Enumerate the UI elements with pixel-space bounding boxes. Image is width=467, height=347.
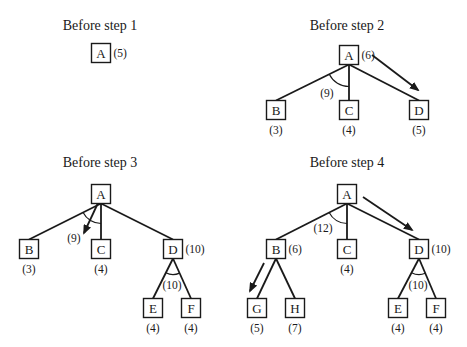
node-c: C(4)	[340, 101, 359, 137]
node-label: F	[187, 301, 194, 316]
expansion-arrow-icon	[363, 197, 412, 230]
node-label: C	[343, 242, 352, 257]
node-cost: (10)	[432, 243, 451, 256]
edge-a-b	[276, 65, 349, 101]
node-label: D	[414, 242, 423, 257]
node-label: C	[345, 103, 354, 118]
node-b: B(3)	[267, 101, 286, 137]
node-cost: (4)	[94, 263, 108, 276]
edge-b-h	[276, 259, 295, 299]
panel-title: Before step 3	[63, 155, 138, 170]
panel-step3: Before step 3(9)(10)AB(3)C(4)D(10)E(4)F(…	[20, 155, 205, 335]
node-label: A	[344, 48, 354, 63]
node-c: C(4)	[92, 240, 111, 276]
panel-step1: Before step 1A(5)	[63, 18, 138, 63]
and-arc-cost-label: (10)	[162, 279, 181, 292]
node-b: B(3)	[20, 240, 39, 276]
node-a: A(5)	[92, 44, 128, 63]
node-label: F	[432, 301, 439, 316]
expansion-arrow-icon	[372, 55, 418, 90]
node-cost: (5)	[412, 124, 426, 137]
node-cost: (4)	[340, 263, 354, 276]
and-or-graph-figure: Before step 1A(5)Before step 2(9)A(6)B(3…	[0, 0, 467, 347]
and-arc-cost-label: (9)	[320, 87, 334, 100]
node-d: D(5)	[410, 101, 429, 137]
and-arc-cost-label: (10)	[408, 279, 427, 292]
node-g: G(5)	[248, 299, 267, 335]
panel-title: Before step 2	[310, 18, 385, 33]
node-label: G	[252, 301, 261, 316]
node-label: E	[149, 301, 157, 316]
node-label: D	[414, 103, 423, 118]
node-cost: (4)	[391, 322, 405, 335]
node-d: D(10)	[164, 240, 205, 259]
panel-title: Before step 1	[63, 18, 138, 33]
node-label: B	[25, 242, 34, 257]
node-a: A	[92, 185, 111, 204]
node-cost: (3)	[22, 263, 36, 276]
and-arc-cost-label: (12)	[313, 222, 332, 235]
and-arc	[412, 273, 426, 275]
edge-a-b	[276, 204, 347, 240]
node-cost: (5)	[114, 47, 128, 60]
node-c: C(4)	[338, 240, 357, 276]
node-label: A	[96, 46, 106, 61]
node-a: A(6)	[340, 46, 376, 65]
node-label: D	[168, 242, 177, 257]
node-cost: (10)	[186, 243, 205, 256]
node-cost: (4)	[146, 322, 160, 335]
node-label: B	[272, 242, 281, 257]
node-label: B	[272, 103, 281, 118]
node-cost: (7)	[288, 322, 302, 335]
node-d: D(10)	[410, 240, 451, 259]
node-cost: (4)	[342, 124, 356, 137]
node-e: E(4)	[144, 299, 163, 335]
diagram-canvas: Before step 1A(5)Before step 2(9)A(6)B(3…	[0, 0, 467, 347]
and-arc	[166, 273, 180, 275]
node-label: A	[96, 187, 106, 202]
and-arc-cost-label: (9)	[67, 232, 81, 245]
edge-a-d	[101, 204, 173, 240]
edge-b-g	[257, 259, 276, 299]
node-h: H(7)	[286, 299, 305, 335]
node-cost: (6)	[289, 243, 303, 256]
edge-a-d	[347, 204, 419, 240]
node-cost: (5)	[250, 322, 264, 335]
node-label: H	[290, 301, 299, 316]
node-cost: (4)	[429, 322, 443, 335]
node-cost: (4)	[184, 322, 198, 335]
node-label: E	[394, 301, 402, 316]
node-cost: (6)	[362, 49, 376, 62]
node-label: C	[97, 242, 106, 257]
and-arc	[329, 74, 349, 86]
node-e: E(4)	[389, 299, 408, 335]
node-f: F(4)	[182, 299, 201, 335]
node-f: F(4)	[427, 299, 446, 335]
node-label: A	[342, 187, 352, 202]
node-cost: (3)	[269, 124, 283, 137]
panel-step2: Before step 2(9)A(6)B(3)C(4)D(5)	[267, 18, 429, 137]
node-b: B(6)	[267, 240, 303, 259]
node-a: A	[338, 185, 357, 204]
panel-title: Before step 4	[310, 155, 385, 170]
panel-step4: Before step 4(12)(10)AB(6)C(4)D(10)G(5)H…	[248, 155, 451, 335]
